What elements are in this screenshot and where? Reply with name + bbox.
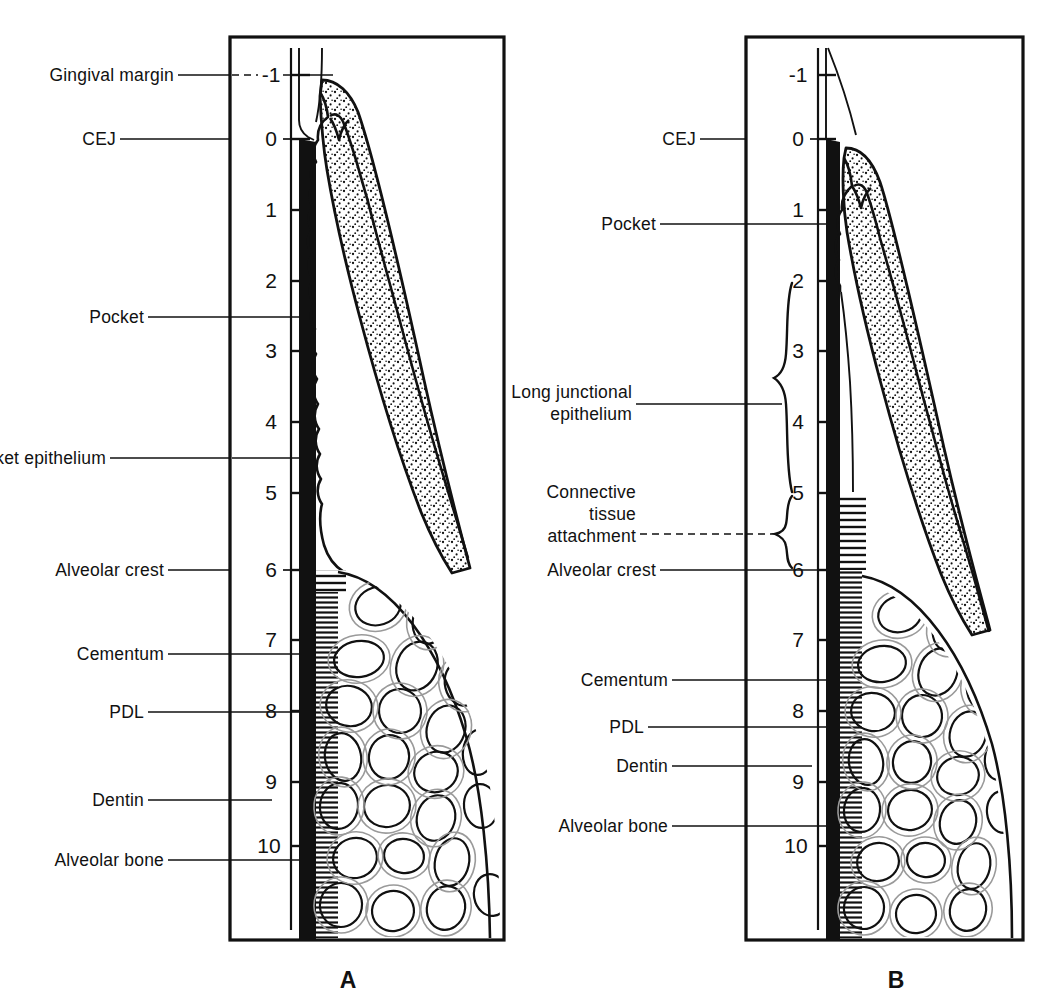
label-alveolar-bone: Alveolar bone [54, 850, 164, 870]
panel-a-alveolar-bone [310, 572, 512, 941]
scale-number: 8 [792, 699, 804, 722]
figure-root: -1 0 1 2 3 4 5 6 7 8 9 10 Gingival margi… [0, 0, 1040, 1008]
panel-a-labels: Gingival margin CEJ Pocket Pocket epithe… [0, 65, 174, 870]
scale-number: 8 [265, 699, 277, 722]
label-dentin: Dentin [92, 790, 144, 810]
label-dentin: Dentin [616, 756, 668, 776]
label-long-junctional-epithelium-line2: epithelium [550, 404, 632, 424]
panel-a-enamel-outline [299, 48, 314, 140]
panel-b-connective-tissue-attachment [840, 494, 866, 570]
scale-number: 2 [265, 269, 277, 292]
scale-number: 4 [265, 410, 277, 433]
label-cementum: Cementum [77, 644, 164, 664]
scale-number: 3 [792, 339, 804, 362]
label-pocket: Pocket [89, 307, 144, 327]
label-pocket-epithelium: Pocket epithelium [0, 448, 106, 468]
scale-number: 0 [265, 127, 277, 150]
label-alveolar-bone: Alveolar bone [558, 816, 668, 836]
label-alveolar-crest: Alveolar crest [55, 560, 164, 580]
scale-number: 6 [265, 558, 277, 581]
panel-b-leaders [636, 139, 840, 826]
scale-number: 1 [265, 198, 277, 221]
panel-b-crown-contour [828, 48, 856, 135]
scale-number: -1 [789, 63, 808, 86]
panel-b: -1 0 1 2 3 4 5 6 7 8 9 10 CEJ Pocket Lon… [511, 37, 1023, 993]
scale-number: -1 [262, 63, 281, 86]
panel-a-caption: A [340, 967, 357, 993]
panel-a-root-lower [299, 570, 316, 940]
label-connective-tissue-attachment: Connective tissue attachment [546, 482, 636, 546]
panel-b-labels: CEJ Pocket Long junctional epithelium Co… [511, 129, 696, 836]
scale-number: 6 [792, 558, 804, 581]
scale-number: 5 [792, 481, 804, 504]
scale-number: 10 [784, 834, 807, 857]
scale-number: 1 [792, 198, 804, 221]
scale-number: 7 [265, 628, 277, 651]
label-pdl: PDL [109, 702, 144, 722]
scale-number: 10 [257, 834, 280, 857]
scale-number: 0 [792, 127, 804, 150]
scale-number: 2 [792, 269, 804, 292]
label-connective-tissue-attachment-line2: tissue [589, 504, 636, 524]
panel-a-scale-numbers: -1 0 1 2 3 4 5 6 7 8 9 10 [257, 63, 280, 857]
panel-b-long-junctional-epithelium [841, 292, 853, 492]
scale-number: 7 [792, 628, 804, 651]
scale-number: 4 [792, 410, 804, 433]
scale-number: 9 [265, 770, 277, 793]
label-cej: CEJ [662, 129, 696, 149]
label-pdl: PDL [609, 717, 644, 737]
label-cementum: Cementum [581, 670, 668, 690]
brace-long-junctional-epithelium [774, 283, 792, 492]
panel-a-gingiva [320, 80, 470, 573]
label-long-junctional-epithelium: Long junctional epithelium [511, 382, 632, 424]
panel-a: -1 0 1 2 3 4 5 6 7 8 9 10 Gingival margi… [0, 37, 511, 993]
label-alveolar-crest: Alveolar crest [547, 560, 656, 580]
panel-b-root-dentin [826, 139, 840, 586]
label-long-junctional-epithelium-line1: Long junctional [511, 382, 632, 402]
scale-number: 5 [265, 481, 277, 504]
label-cej: CEJ [82, 129, 116, 149]
panel-a-trabeculae [310, 573, 512, 941]
panel-b-braces [774, 283, 792, 568]
label-connective-tissue-attachment-line1: Connective [546, 482, 636, 502]
label-pocket: Pocket [601, 214, 656, 234]
scale-number: 3 [265, 339, 277, 362]
label-connective-tissue-attachment-line3: attachment [547, 526, 636, 546]
panel-b-frame [746, 37, 1023, 940]
brace-connective-tissue-attachment [775, 496, 792, 568]
panel-b-caption: B [888, 967, 905, 993]
label-gingival-margin: Gingival margin [49, 65, 174, 85]
panel-b-root-lower [826, 570, 840, 940]
scale-number: 9 [792, 770, 804, 793]
